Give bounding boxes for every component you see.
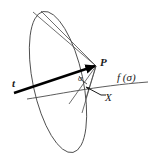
cone-edge-upper [33,12,96,66]
ellipse [19,6,98,157]
geometry-figure: P t α X f (σ) [0,0,154,162]
cone-edge-lower [41,11,96,66]
label-tangent-t: t [12,78,15,89]
curve-f-sigma [27,82,148,99]
cone-line-mid-down [86,66,96,98]
label-curve-f-sigma: f (σ) [117,72,136,83]
label-angle-alpha: α [78,75,82,83]
label-vector-x: X [105,92,112,103]
cone-line-left-down [69,66,96,104]
label-point-p: P [100,57,107,68]
